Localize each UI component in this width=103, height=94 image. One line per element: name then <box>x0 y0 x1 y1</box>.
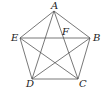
label-e: E <box>10 32 19 43</box>
edge-bc <box>78 38 90 79</box>
edge-ec <box>20 38 78 79</box>
edge-ab <box>54 11 90 38</box>
label-b: B <box>92 32 100 43</box>
pentagon-diagram: A B C D E F <box>0 0 103 94</box>
label-d: D <box>25 78 34 89</box>
edge-ac <box>54 11 78 79</box>
edge-db <box>32 38 90 79</box>
label-f: F <box>61 26 70 37</box>
edge-ad <box>32 11 54 79</box>
label-a: A <box>50 0 58 11</box>
edge-de <box>20 38 32 79</box>
pentagon-edges <box>20 11 90 79</box>
label-c: C <box>79 78 87 89</box>
edge-ea <box>20 11 54 38</box>
